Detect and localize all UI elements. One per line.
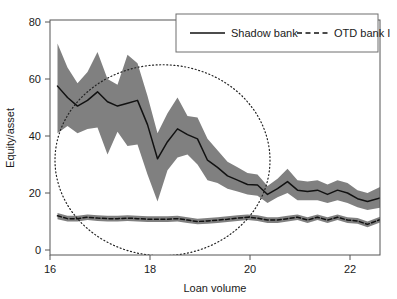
y-tick-label: 80 (29, 16, 41, 28)
y-tick-label: 20 (29, 187, 41, 199)
chart-figure: 16182022020406080 Loan volume Equity/ass… (0, 0, 397, 299)
y-tick-label: 40 (29, 130, 41, 142)
legend-label-otd-bank: OTD bank I (334, 27, 390, 39)
x-axis-title: Loan volume (184, 282, 247, 294)
x-tick-label: 18 (144, 263, 156, 275)
chart-legend: Shadow bank OTD bank I (176, 14, 390, 52)
x-tick-label: 16 (44, 263, 56, 275)
y-tick-label: 0 (35, 244, 41, 256)
equity-asset-vs-loan-volume-chart: 16182022020406080 Loan volume Equity/ass… (0, 0, 397, 299)
y-tick-label: 60 (29, 73, 41, 85)
x-tick-label: 22 (344, 263, 356, 275)
y-axis-title: Equity/asset (4, 108, 16, 168)
legend-label-shadow-bank: Shadow bank (231, 27, 298, 39)
x-tick-label: 20 (244, 263, 256, 275)
